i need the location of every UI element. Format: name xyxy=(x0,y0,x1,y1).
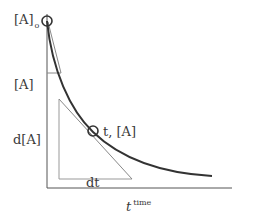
initial-tangent-line xyxy=(48,22,61,73)
x-axis-superscript: time xyxy=(133,198,151,207)
tangent-point-label: t, [A] xyxy=(103,125,136,138)
concentration-time-diagram xyxy=(0,0,264,217)
initial-concentration-label: [A]o xyxy=(14,13,39,26)
initial-concentration-subscript: o xyxy=(35,21,40,30)
x-axis-variable: t xyxy=(126,199,131,214)
tangent-line xyxy=(59,99,132,179)
decay-curve xyxy=(47,21,212,176)
d-concentration-label: d[A] xyxy=(13,133,41,146)
x-axis-label: ttime xyxy=(126,200,151,213)
concentration-label: [A] xyxy=(14,78,34,91)
dt-label: dt xyxy=(86,176,100,189)
initial-concentration-text: [A] xyxy=(14,12,34,27)
